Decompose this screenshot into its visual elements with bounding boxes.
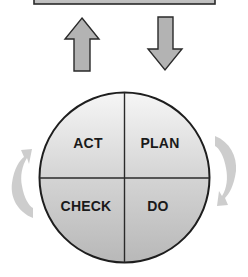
rotate-down-arrow-icon [215, 136, 236, 206]
down-arrow-icon [148, 17, 182, 70]
quadrant-label-plan: PLAN [130, 135, 190, 151]
quadrant-label-act: ACT [58, 135, 118, 151]
up-arrow-icon [65, 18, 99, 71]
pdca-diagram [0, 0, 248, 277]
rotate-up-arrow-icon [12, 149, 33, 218]
quadrant-label-check: CHECK [56, 198, 116, 214]
top-box [34, 0, 215, 4]
quadrant-label-do: DO [128, 198, 188, 214]
